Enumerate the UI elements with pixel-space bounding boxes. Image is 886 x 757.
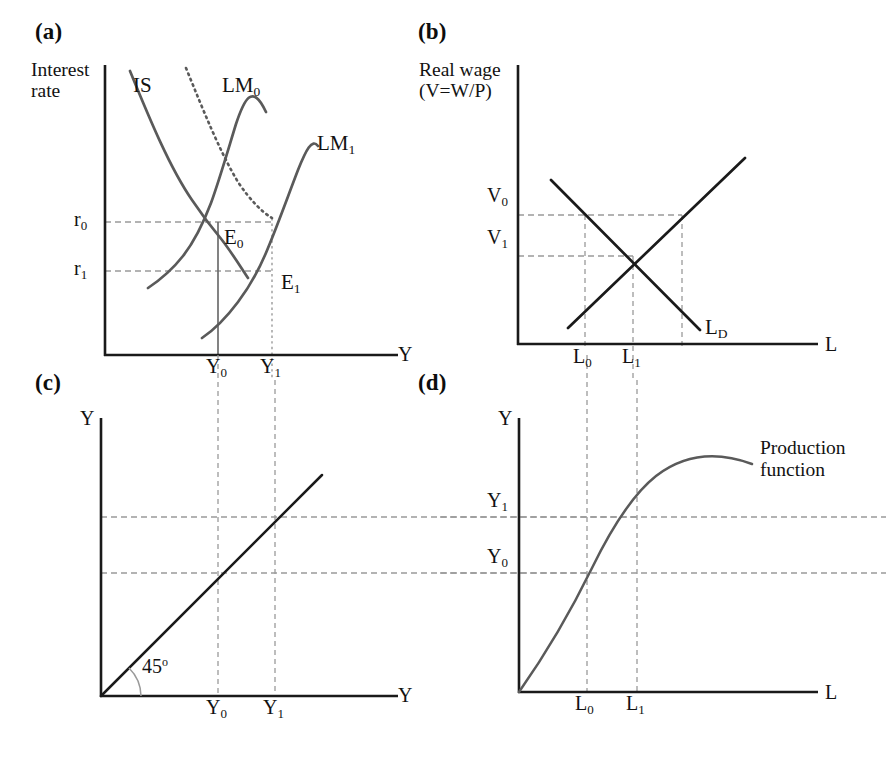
tick-y0-d: Y0 xyxy=(487,545,508,568)
tick-l1-b-base: L xyxy=(622,345,634,367)
tick-l1-d-base: L xyxy=(626,692,638,714)
tick-v1: V1 xyxy=(487,226,508,249)
panel-tag-d: (d) xyxy=(418,370,447,396)
tick-y1-d: Y1 xyxy=(487,489,508,512)
tick-y0-d-sub: 0 xyxy=(501,555,508,570)
panel-tag-a: (a) xyxy=(35,19,62,45)
lm1-subscript: 1 xyxy=(349,142,356,157)
tick-l0-b: L0 xyxy=(573,345,592,368)
angle-arc xyxy=(129,668,141,696)
tick-l0-d: L0 xyxy=(575,692,594,715)
e0-base: E xyxy=(224,225,237,249)
tick-r0-sub: 0 xyxy=(81,218,88,233)
panel-d-x-axis-label: L xyxy=(825,681,837,704)
tick-l0-b-sub: 0 xyxy=(585,355,592,370)
tick-y1-d-sub: 1 xyxy=(501,499,508,514)
tick-r1-base: r xyxy=(74,257,81,279)
labour-demand-curve xyxy=(551,180,700,330)
tick-y1-d-base: Y xyxy=(487,489,501,511)
panel-a-x-axis-label: Y xyxy=(398,343,412,366)
tick-r0-base: r xyxy=(74,208,81,230)
labour-supply-curve xyxy=(568,158,745,328)
tick-y0-d-base: Y xyxy=(487,545,501,567)
tick-l1-d: L1 xyxy=(626,692,645,715)
lm0-subscript: 0 xyxy=(254,84,261,99)
is-curve-label: IS xyxy=(133,73,152,98)
panel-b-x-axis-label: L xyxy=(825,333,837,356)
e1-base: E xyxy=(281,270,294,294)
tick-y0-a-sub: 0 xyxy=(220,365,227,380)
tick-v0-base: V xyxy=(487,184,501,206)
lm0-base: LM xyxy=(222,73,254,97)
tick-r0: r0 xyxy=(74,208,87,231)
forty-five-degree-label: 45o xyxy=(142,655,168,678)
tick-l0-d-base: L xyxy=(575,692,587,714)
tick-y0-c-sub: 0 xyxy=(220,706,227,721)
tick-v0-sub: 0 xyxy=(501,194,508,209)
e0-sub: 0 xyxy=(237,236,244,251)
lm1-base: LM xyxy=(317,131,349,155)
tick-y1-c: Y1 xyxy=(263,696,284,719)
tick-l1-b: L1 xyxy=(622,345,641,368)
ld-sub: D xyxy=(718,326,728,341)
panel-tag-c: (c) xyxy=(35,370,61,396)
lm0-curve xyxy=(148,96,266,288)
equilibrium-e0-label: E0 xyxy=(224,225,244,250)
tick-y0-a: Y0 xyxy=(206,355,227,378)
production-function-label: Production function xyxy=(760,437,846,481)
figure-root: (a) (b) (c) (d) Interest rate IS LM0 LM1… xyxy=(0,0,886,757)
panel-tag-b: (b) xyxy=(418,19,447,45)
tick-y1-a: Y1 xyxy=(260,355,281,378)
tick-y1-c-base: Y xyxy=(263,696,277,718)
production-function-curve xyxy=(519,456,752,692)
labour-demand-label: LD xyxy=(705,315,728,340)
tick-v1-base: V xyxy=(487,226,501,248)
panel-b-y-axis-caption: Real wage (V=W/P) xyxy=(419,59,501,101)
e1-sub: 1 xyxy=(294,281,301,296)
tick-l0-d-sub: 0 xyxy=(587,702,594,717)
tick-l0-b-base: L xyxy=(573,345,585,367)
panel-c-x-axis-label: Y xyxy=(398,684,412,707)
panel-a-graphics xyxy=(104,65,398,378)
angle-degree-symbol: o xyxy=(162,655,168,669)
tick-y0-c-base: Y xyxy=(206,696,220,718)
panel-a-y-axis-caption: Interest rate xyxy=(31,59,89,101)
tick-y1-a-base: Y xyxy=(260,355,274,377)
tick-v1-sub: 1 xyxy=(501,236,508,251)
lm1-curve-label: LM1 xyxy=(317,131,355,156)
tick-r1: r1 xyxy=(74,257,87,280)
tick-l1-d-sub: 1 xyxy=(638,702,645,717)
tick-r1-sub: 1 xyxy=(81,267,88,282)
tick-y0-a-base: Y xyxy=(206,355,220,377)
panel-c-y-axis-label: Y xyxy=(80,407,94,430)
panel-d-y-axis-label: Y xyxy=(498,407,512,430)
lm1-curve xyxy=(202,143,318,338)
forty-five-degree-line xyxy=(101,475,322,696)
panel-b-graphics xyxy=(517,65,818,378)
tick-y0-c: Y0 xyxy=(206,696,227,719)
angle-value: 45 xyxy=(142,655,162,677)
lm0-curve-label: LM0 xyxy=(222,73,260,98)
equilibrium-e1-label: E1 xyxy=(281,270,301,295)
tick-y1-c-sub: 1 xyxy=(277,706,284,721)
panel-d-graphics xyxy=(440,355,818,693)
tick-v0: V0 xyxy=(487,184,508,207)
panel-c-graphics xyxy=(100,355,886,697)
tick-l1-b-sub: 1 xyxy=(634,355,641,370)
tick-y1-a-sub: 1 xyxy=(274,365,281,380)
ld-base: L xyxy=(705,315,718,339)
